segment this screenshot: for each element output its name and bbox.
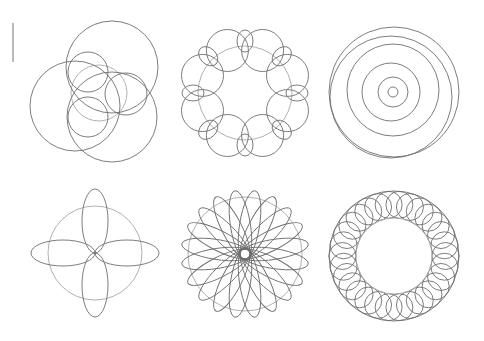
pattern-circle-ring	[329, 191, 459, 321]
petal	[193, 202, 257, 266]
petal	[234, 202, 298, 266]
inner-circle	[356, 218, 432, 294]
curve-circle	[362, 63, 420, 121]
ring-circle	[386, 191, 413, 218]
ring-circle	[428, 263, 455, 290]
curve-circle	[347, 44, 439, 136]
ring-circle	[333, 263, 360, 290]
loop-arc	[206, 30, 248, 72]
pattern-three-lobe	[30, 21, 158, 162]
small-loop	[195, 43, 222, 70]
curve-circle	[68, 97, 108, 137]
petal	[234, 243, 298, 307]
loop-arc	[266, 90, 308, 132]
small-loop	[268, 116, 295, 143]
loop-arc	[266, 54, 308, 96]
small-loop	[237, 30, 253, 52]
ring-circle	[428, 222, 455, 249]
guide-circle	[198, 46, 292, 140]
loop-arc	[206, 114, 248, 156]
curve-circle	[30, 61, 120, 151]
small-loop	[195, 116, 222, 143]
petal	[82, 253, 108, 317]
pattern-four-petal	[31, 189, 159, 317]
curve-circle	[105, 73, 147, 115]
loop-arc	[182, 54, 224, 96]
pattern-twenty-petal	[180, 189, 310, 319]
loop-arc	[242, 30, 284, 72]
petal	[82, 189, 108, 253]
loop-arc	[242, 114, 284, 156]
ring-circle	[355, 287, 382, 314]
small-loop	[268, 43, 295, 70]
ring-circle	[333, 222, 360, 249]
curve-circle	[67, 72, 157, 162]
curve-circle	[329, 27, 459, 157]
small-loop	[237, 134, 253, 156]
petal	[95, 240, 159, 266]
ring-circle	[375, 294, 402, 321]
curve-circle	[68, 52, 108, 92]
curve-circle	[378, 77, 408, 107]
spirograph-canvas	[0, 0, 484, 341]
petal	[31, 240, 95, 266]
curve-circle	[388, 87, 398, 97]
small-loop	[182, 85, 204, 101]
pattern-nested-circles	[329, 27, 459, 158]
petal	[193, 243, 257, 307]
pattern-eight-loop	[182, 30, 309, 157]
loop-arc	[182, 90, 224, 132]
ring-circle	[406, 198, 433, 225]
